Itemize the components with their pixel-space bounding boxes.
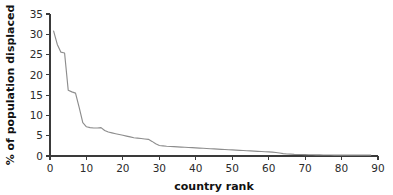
y-tick-label: 25 <box>30 48 43 60</box>
y-tick-label: 35 <box>30 8 43 20</box>
x-tick-label: 60 <box>262 162 275 174</box>
y-tick-label: 15 <box>30 89 43 101</box>
y-tick-label: 0 <box>36 150 43 162</box>
x-tick-label: 70 <box>298 162 311 174</box>
x-tick-label: 20 <box>116 162 129 174</box>
x-tick-label: 90 <box>371 162 384 174</box>
y-tick-label: 20 <box>30 69 43 81</box>
y-axis-title: % of population displaced <box>4 5 17 166</box>
y-tick-label: 10 <box>30 109 43 121</box>
y-tick-label: 30 <box>30 28 43 40</box>
x-tick-label: 0 <box>47 162 54 174</box>
x-tick-label: 40 <box>189 162 202 174</box>
data-series-line <box>54 31 371 155</box>
x-axis-title: country rank <box>174 180 254 193</box>
chart-container: % of population displaced country rank 0… <box>0 0 393 195</box>
x-axis-ticks: 0102030405060708090 <box>47 156 385 174</box>
y-axis-ticks: 05101520253035 <box>30 8 50 162</box>
y-tick-label: 5 <box>36 129 43 141</box>
x-tick-label: 10 <box>80 162 93 174</box>
x-tick-label: 80 <box>335 162 348 174</box>
x-tick-label: 30 <box>153 162 166 174</box>
x-tick-label: 50 <box>226 162 239 174</box>
line-chart: % of population displaced country rank 0… <box>0 0 393 195</box>
